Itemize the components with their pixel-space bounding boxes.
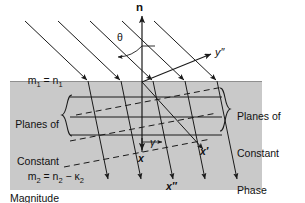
- figure-canvas: n θ γ y″ x x′ x″ m1 = n1 m2 = n2 − κ2 Pl…: [0, 0, 305, 203]
- pcm-line-3: Magnitude: [0, 192, 59, 203]
- planes-of-constant-magnitude-caption: Planes of Constant Magnitude: [0, 93, 59, 203]
- incident-ray-3: [90, 21, 152, 80]
- pcp-line-1: Planes of: [237, 110, 305, 122]
- y-axis-line: [142, 54, 211, 82]
- medium-2-minus-kappa: − κ: [63, 170, 80, 182]
- planes-of-constant-phase-caption: Planes of Constant Phase: [237, 85, 305, 203]
- normal-label: n: [136, 1, 143, 15]
- medium-1-eq: = n: [41, 74, 59, 86]
- incident-ray-4: [122, 21, 184, 80]
- x-double-prime-label: x″: [166, 180, 177, 192]
- x-label: x: [138, 152, 144, 164]
- pcp-line-3: Phase: [237, 184, 305, 196]
- incident-ray-5: [154, 21, 216, 80]
- theta-label: θ: [117, 31, 123, 43]
- medium-1-n-sub: 1: [58, 80, 62, 89]
- incident-ray-2: [58, 21, 120, 80]
- pcm-line-2: Constant: [0, 155, 59, 167]
- x-prime-label: x′: [200, 145, 208, 157]
- medium-2-kappa-sub: 2: [80, 176, 84, 185]
- pcp-line-2: Constant: [237, 147, 305, 159]
- gamma-label: γ: [150, 136, 155, 148]
- y-double-prime-label: y″: [215, 46, 224, 59]
- pcm-line-1: Planes of: [0, 118, 59, 130]
